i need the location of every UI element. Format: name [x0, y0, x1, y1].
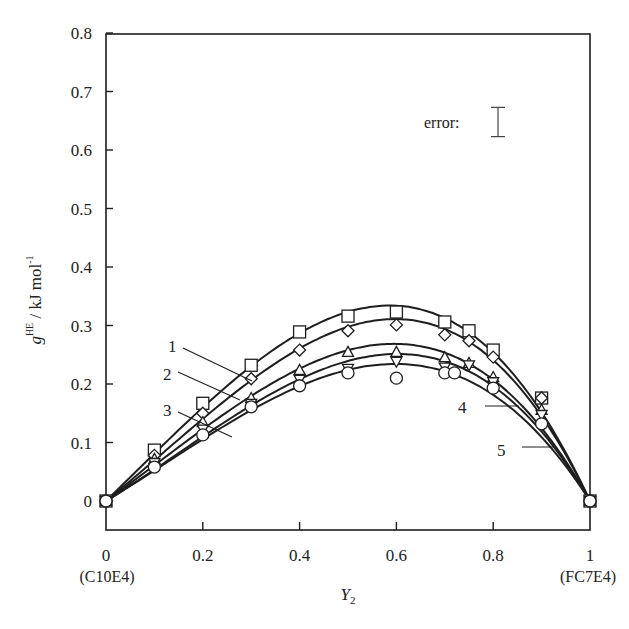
data-point-series-3: [391, 346, 402, 356]
x-axis-label-subscript: 2: [350, 594, 356, 606]
data-point-series-1: [245, 359, 257, 371]
data-point-series-5: [197, 429, 209, 441]
error-bar-label: error:: [424, 114, 460, 131]
data-point-series-2: [390, 319, 402, 331]
y-tick-label: 0: [84, 492, 93, 511]
curve-label-4: 4: [458, 398, 467, 417]
curve-label-2: 2: [163, 365, 172, 384]
data-point-series-5: [390, 372, 402, 384]
curve-label-leader-2: [178, 372, 240, 400]
x-end-label-right: (FC7E4): [560, 568, 616, 586]
x-end-label-left: (C10E4): [79, 568, 134, 586]
data-point-series-5: [584, 495, 596, 507]
y-axis-label-symbol: g: [26, 336, 45, 345]
data-point-series-5: [448, 367, 460, 379]
data-point-series-1: [342, 310, 354, 322]
y-tick-label: 0.1: [71, 434, 92, 453]
curve-label-1: 1: [168, 337, 177, 356]
x-tick-label: 0.6: [386, 546, 407, 565]
data-point-series-5: [294, 380, 306, 392]
data-point-series-5: [245, 401, 257, 413]
y-tick-label: 0.2: [71, 375, 92, 394]
data-point-series-5: [100, 495, 112, 507]
y-tick-label: 0.5: [71, 200, 92, 219]
y-tick-label: 0.8: [71, 24, 92, 43]
y-axis-label-units-superscript: -1: [24, 255, 35, 263]
x-tick-label: 0.4: [289, 546, 311, 565]
data-point-series-1: [390, 306, 402, 318]
data-point-series-1: [294, 326, 306, 338]
axes: 00.10.20.30.40.50.60.70.800.20.40.60.81(…: [24, 24, 616, 606]
y-tick-label: 0.4: [71, 258, 93, 277]
y-tick-label: 0.7: [71, 83, 93, 102]
chart: 00.10.20.30.40.50.60.70.800.20.40.60.81(…: [0, 0, 629, 629]
x-tick-label: 0.2: [192, 546, 213, 565]
annotations: 12345error:: [163, 107, 555, 460]
curve-label-leader-1: [183, 348, 252, 381]
data-point-series-5: [536, 418, 548, 430]
data-point-series-5: [487, 382, 499, 394]
x-tick-label: 1: [586, 546, 595, 565]
x-tick-label: 0: [102, 546, 111, 565]
y-axis-label-units: / kJ mol: [26, 263, 45, 322]
data-point-series-5: [148, 461, 160, 473]
x-axis-label: Y2: [341, 585, 356, 606]
data-point-series-1: [439, 316, 451, 328]
curve-label-3: 3: [163, 401, 172, 420]
y-axis-label: gHE / kJ mol-1: [24, 255, 45, 344]
curve-label-5: 5: [497, 441, 506, 460]
y-axis-label-superscript: HE: [24, 323, 35, 336]
y-tick-label: 0.6: [71, 141, 92, 160]
data-point-series-4: [391, 357, 402, 367]
x-tick-label: 0.8: [483, 546, 504, 565]
y-tick-label: 0.3: [71, 317, 92, 336]
data-point-series-5: [342, 367, 354, 379]
